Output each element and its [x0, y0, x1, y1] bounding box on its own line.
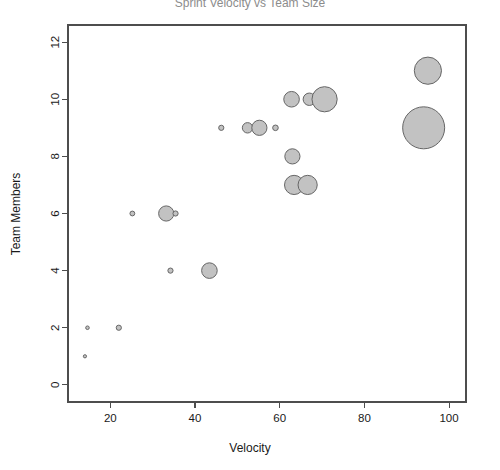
bubble-point	[202, 263, 218, 279]
bubble-point	[312, 87, 337, 112]
y-tick-label: 6	[49, 210, 61, 216]
x-tick-label: 60	[273, 412, 286, 424]
y-tick-label: 0	[49, 382, 61, 388]
bubble-chart: Sprint Velocity vs Team Size 024681012 2…	[0, 0, 500, 470]
bubble-point	[116, 325, 121, 330]
bubble-point	[284, 91, 300, 107]
x-axis-title: Velocity	[229, 441, 270, 455]
bubble-point	[86, 326, 90, 330]
y-tick-label: 10	[49, 93, 61, 106]
x-tick-label: 20	[104, 412, 117, 424]
bubble-point	[219, 125, 224, 130]
bubble-point	[414, 57, 441, 84]
chart-canvas: Sprint Velocity vs Team Size 024681012 2…	[0, 0, 500, 470]
bubble-point	[403, 107, 445, 149]
x-tick-label: 40	[189, 412, 202, 424]
chart-title: Sprint Velocity vs Team Size	[175, 0, 326, 10]
bubble-point	[130, 211, 135, 216]
y-tick-label: 8	[49, 153, 61, 159]
bubble-point	[242, 123, 252, 133]
bubble-point	[159, 206, 174, 221]
bubble-point	[273, 125, 279, 131]
x-tick-label: 80	[358, 412, 371, 424]
y-tick-label: 12	[49, 36, 61, 49]
bubble-point	[285, 149, 300, 164]
y-tick-label: 4	[49, 267, 61, 274]
bubble-point	[252, 120, 267, 135]
x-tick-label: 100	[439, 412, 458, 424]
bubble-point	[83, 355, 86, 358]
bubble-point	[168, 268, 173, 273]
bubble-point	[298, 175, 317, 194]
y-axis-title: Team Members	[9, 173, 23, 256]
y-tick-label: 2	[49, 325, 61, 331]
bubble-point	[173, 211, 178, 216]
